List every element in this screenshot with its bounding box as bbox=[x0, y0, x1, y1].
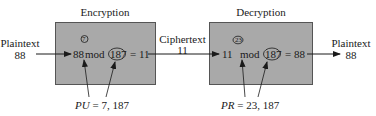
exponent-circle-icon bbox=[233, 36, 243, 44]
pr-mod-pointer-icon bbox=[258, 62, 267, 97]
diagram-connectors bbox=[0, 0, 376, 116]
pu-exp-pointer-icon bbox=[84, 60, 89, 97]
pr-exp-pointer-icon bbox=[242, 60, 245, 97]
modulus-circle-icon bbox=[264, 48, 281, 60]
modulus-circle-icon bbox=[109, 48, 126, 60]
exponent-circle-icon bbox=[81, 36, 88, 43]
rsa-diagram: Plaintext 88 Encryption 88 mod 187 = 11 … bbox=[0, 0, 376, 116]
pu-mod-pointer-icon bbox=[106, 62, 115, 97]
